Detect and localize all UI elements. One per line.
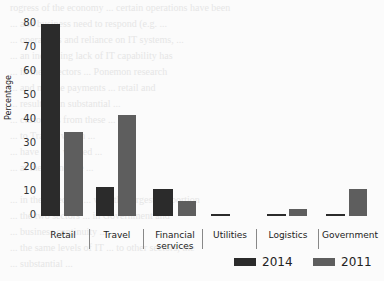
- y-tick: 0: [10, 209, 36, 220]
- bar-travel-2011: [118, 115, 136, 216]
- bar-utilities-2014: [211, 214, 230, 216]
- legend-label: 2014: [262, 255, 293, 269]
- y-tick: 30: [10, 137, 36, 148]
- x-label-travel: Travel: [94, 230, 140, 241]
- bar-government-2011: [349, 189, 367, 216]
- y-tick: 60: [10, 65, 36, 76]
- y-tick: 50: [10, 89, 36, 100]
- y-tick: 10: [10, 185, 36, 196]
- bar-retail-2011: [64, 132, 83, 216]
- bar-retail-2014: [41, 24, 60, 216]
- bar-financial-2011: [178, 201, 196, 216]
- legend-swatch-2011: [313, 258, 335, 266]
- y-tick: 70: [10, 41, 36, 52]
- bar-logistics-2011: [289, 209, 307, 216]
- x-label-retail: Retail: [40, 230, 86, 241]
- bar-logistics-2014: [267, 214, 286, 216]
- x-label-government: Government: [320, 230, 380, 241]
- x-label-financial-services: Financial services: [148, 230, 202, 252]
- legend-item-2011: 2011: [313, 255, 372, 269]
- legend-item-2014: 2014: [234, 255, 293, 269]
- x-label-utilities: Utilities: [205, 230, 255, 241]
- x-label-logistics: Logistics: [262, 230, 314, 241]
- x-label-line: services: [148, 241, 202, 252]
- y-tick: 80: [10, 17, 36, 28]
- category-divider: [89, 229, 90, 249]
- category-divider: [318, 229, 319, 249]
- x-label-line: Financial: [148, 230, 202, 241]
- y-tick: 40: [10, 113, 36, 124]
- category-divider: [202, 229, 203, 249]
- bar-government-2014: [326, 214, 345, 216]
- category-divider: [256, 229, 257, 249]
- bar-travel-2014: [96, 187, 114, 216]
- category-divider: [143, 229, 144, 249]
- legend-swatch-2014: [234, 258, 256, 266]
- legend-label: 2011: [341, 255, 372, 269]
- y-tick: 20: [10, 161, 36, 172]
- bar-financial-2014: [153, 189, 173, 216]
